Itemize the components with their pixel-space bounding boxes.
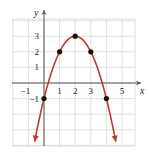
y-tick-label: 2 <box>35 47 40 57</box>
x-tick-label: 1 <box>57 86 62 96</box>
curve-arrow-icon <box>33 135 39 141</box>
y-axis-label: y <box>33 7 39 18</box>
parabola-graph: −11235−1123 x y <box>0 0 149 158</box>
y-tick-label: −1 <box>29 94 39 104</box>
data-point <box>88 49 93 54</box>
data-point <box>73 34 78 39</box>
curve-arrow-icon <box>112 135 118 141</box>
y-tick-label: 1 <box>35 62 40 72</box>
x-tick-label: 5 <box>120 86 125 96</box>
data-point <box>57 49 62 54</box>
x-tick-label: 2 <box>73 86 78 96</box>
data-point <box>104 96 109 101</box>
x-tick-label: 3 <box>89 86 94 96</box>
data-point <box>41 96 46 101</box>
x-axis-label: x <box>139 85 145 96</box>
y-tick-label: 3 <box>35 31 40 41</box>
